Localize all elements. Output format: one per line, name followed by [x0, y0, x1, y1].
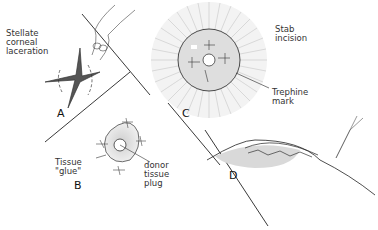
trephined-cornea [151, 2, 269, 118]
caption-stab-incision: Stab incision [275, 25, 307, 43]
panel-label-a: A [57, 107, 65, 120]
surgical-illustration: Stellate corneal laceration A Tissue "gl… [0, 0, 378, 230]
stellate-laceration [45, 48, 100, 108]
corneal-cross-section [207, 116, 375, 195]
tissue-glue-patch [96, 118, 150, 175]
caption-donor-tissue-plug: donor tissue plug [144, 161, 169, 188]
panel-label-c: C [182, 107, 190, 120]
caption-stellate-laceration: Stellate corneal laceration [6, 29, 48, 56]
panel-label-b: B [74, 179, 82, 192]
panel-label-d: D [229, 169, 237, 182]
caption-trephine-mark: Trephine mark [272, 88, 308, 106]
caption-tissue-glue: Tissue "glue" [55, 158, 82, 176]
